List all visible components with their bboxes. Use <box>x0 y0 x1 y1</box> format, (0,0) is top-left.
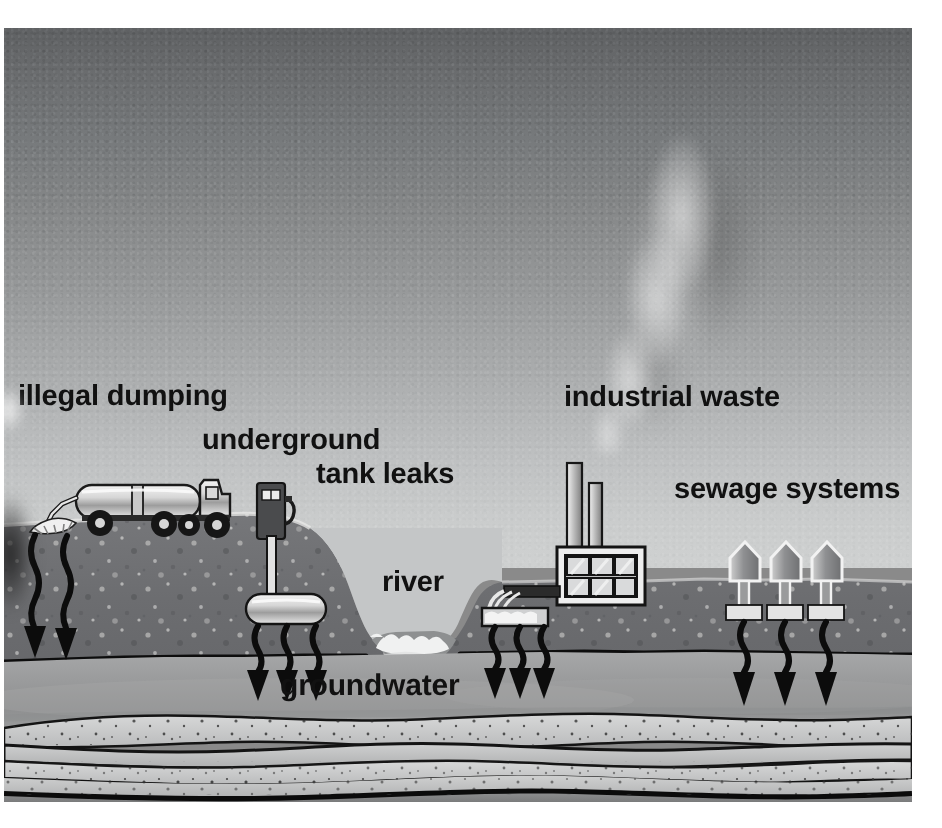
tank-fill-pipe <box>267 536 276 598</box>
house-group-1 <box>726 542 762 620</box>
house-group-2 <box>767 542 803 620</box>
outfall-arrowheads <box>484 668 555 699</box>
label-illegal-dumping: illegal dumping <box>18 380 228 413</box>
scan-smudge-dark <box>4 480 42 628</box>
page-root: illegal dumping underground tank leaks r… <box>0 0 942 828</box>
discharge-basin <box>482 608 548 626</box>
label-tank-leaks: tank leaks <box>316 458 454 491</box>
label-industrial-waste: industrial waste <box>564 381 780 414</box>
label-groundwater: groundwater <box>280 669 459 703</box>
house-group-3 <box>808 542 844 620</box>
factory-building <box>557 463 645 605</box>
label-river: river <box>382 566 444 599</box>
label-sewage-systems: sewage systems <box>674 473 900 506</box>
underground-storage-tank <box>246 594 326 624</box>
scan-smudge-light <box>4 380 34 440</box>
diagram-photo: illegal dumping underground tank leaks r… <box>4 28 912 802</box>
label-underground: underground <box>202 424 380 457</box>
bedrock-strata <box>4 714 912 802</box>
